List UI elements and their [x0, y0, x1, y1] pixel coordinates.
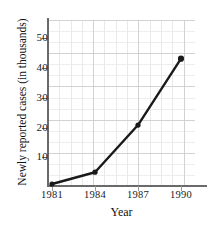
data-series-layer: [0, 0, 215, 228]
line-chart: 50 40 30 20 10 1981 1984 1987 1990 Newly…: [0, 0, 215, 228]
series-markers: [49, 56, 184, 187]
data-point-1990: [178, 56, 184, 62]
data-point-1984: [92, 170, 97, 175]
data-point-1987: [135, 122, 140, 127]
series-line: [52, 59, 181, 184]
data-point-1981: [49, 181, 54, 186]
